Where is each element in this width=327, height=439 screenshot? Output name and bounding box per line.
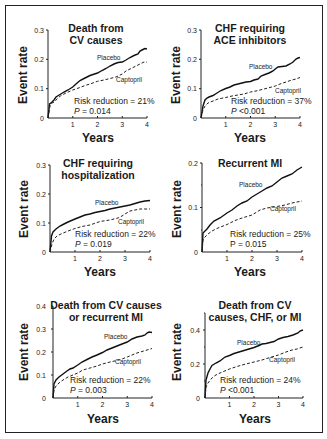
x-tick: 3 [123, 255, 127, 262]
panel-chf-hosp: Event rate 0 0.1 0.2 0.3 1 2 3 4 Years C… [17, 157, 156, 279]
y-tick: 0.2 [36, 191, 46, 198]
y-axis-label: Event rate [170, 180, 184, 238]
p-value: P <0.001 [220, 385, 255, 395]
x-axis-label: Years [87, 412, 119, 426]
y-axis-label: Event rate [16, 46, 30, 104]
panel-title: CHF requiring [215, 22, 285, 34]
captopril-label: Captopril [269, 356, 296, 364]
y-tick: 0.1 [187, 85, 197, 92]
panel-chf-ace: Event rate 0 0.1 0.2 0.3 1 2 3 4 Years C… [169, 22, 312, 145]
x-tick: 3 [125, 401, 129, 408]
x-tick: 1 [228, 401, 232, 408]
p-number: = 0.019 [81, 239, 112, 249]
y-tick: 0 [196, 395, 200, 402]
panel-title: Death from CV [219, 299, 292, 311]
x-tick: 4 [298, 121, 302, 128]
y-tick: 0.3 [34, 27, 44, 34]
p-number: = 0.003 [76, 385, 107, 395]
y-tick: 0 [42, 395, 46, 402]
placebo-label: Placebo [237, 339, 261, 346]
x-tick: 2 [250, 255, 254, 262]
risk-reduction: Risk reduction = 37% [231, 96, 312, 106]
y-axis-label: Event rate [17, 180, 31, 238]
risk-reduction: Risk reduction = 22% [70, 375, 151, 385]
placebo-label: Placebo [239, 181, 263, 188]
x-axis-label: Years [234, 265, 266, 279]
x-axis [202, 250, 302, 252]
panel-title: Death from CV causes [50, 299, 162, 311]
panel-recurrent-mi: Event rate 0 0.1 0.2 1 2 3 4 Years Recur… [170, 157, 311, 279]
y-tick: 0.2 [188, 160, 198, 167]
placebo-label: Placebo [249, 63, 273, 70]
risk-reduction: Risk reduction = 21% [74, 96, 155, 106]
y-axis-label: Event rate [169, 46, 183, 104]
x-axis-label: Years [82, 131, 114, 145]
x-tick: 2 [101, 401, 105, 408]
y-tick: 0.2 [34, 56, 44, 63]
panel-title: CHF requiring [63, 157, 133, 169]
p-value: P = 0.014 [74, 106, 111, 116]
x-tick: 4 [301, 401, 305, 408]
x-axis [201, 116, 300, 118]
captopril-label: Captopril [118, 218, 145, 226]
captopril-label: Captopril [270, 205, 297, 213]
panel-title: hospitalization [61, 169, 135, 181]
placebo-label: Placebo [97, 54, 121, 61]
x-axis [50, 250, 150, 252]
risk-reduction: Risk reduction = 24% [220, 375, 301, 385]
x-axis-label: Years [239, 412, 271, 426]
placebo-label: Placebo [95, 199, 119, 206]
p-value: P <0.001 [231, 106, 266, 116]
y-tick: 0.1 [34, 85, 44, 92]
x-tick: 3 [273, 121, 277, 128]
y-tick: 0 [194, 249, 198, 256]
x-tick: 1 [224, 121, 228, 128]
y-axis [48, 165, 50, 252]
y-axis [199, 30, 201, 118]
x-tick: 4 [145, 121, 149, 128]
panel-title: CV causes [69, 34, 122, 46]
y-axis [203, 313, 205, 398]
y-tick: 0.2 [36, 349, 46, 356]
x-axis-label: Years [234, 131, 266, 145]
x-tick: 4 [148, 255, 152, 262]
risk-reduction: Risk reduction = 25% [230, 229, 311, 239]
y-tick: 0.3 [36, 326, 46, 333]
y-tick: 0.4 [36, 303, 46, 310]
x-tick: 4 [150, 401, 154, 408]
figure-canvas: Event rate 0 0.1 0.2 0.3 1 2 3 4 Years D… [0, 0, 327, 439]
y-tick: 0.1 [36, 220, 46, 227]
x-axis [205, 396, 303, 398]
risk-reduction: Risk reduction = 22% [75, 229, 156, 239]
y-tick: 0.1 [36, 372, 46, 379]
x-tick: 3 [120, 121, 124, 128]
x-tick: 2 [96, 121, 100, 128]
y-axis [46, 30, 48, 118]
y-tick: 0 [42, 249, 46, 256]
x-tick: 3 [277, 401, 281, 408]
p-number: <0.001 [237, 106, 266, 116]
p-value: P = 0.019 [75, 239, 112, 249]
x-tick: 3 [275, 255, 279, 262]
y-axis-label: Event rate [170, 323, 184, 381]
y-tick: 0.3 [187, 27, 197, 34]
x-tick: 4 [300, 255, 304, 262]
p-value: P = 0.015 [230, 239, 267, 249]
y-tick: 0 [40, 115, 44, 122]
panel-death-cv: Event rate 0 0.1 0.2 0.3 1 2 3 4 Years D… [16, 22, 155, 145]
x-tick: 2 [98, 255, 102, 262]
y-tick: 0.3 [36, 162, 46, 169]
panel-title: ACE inhibitors [214, 34, 287, 46]
captopril-label: Captopril [275, 87, 302, 95]
p-value: P = 0.003 [70, 385, 107, 395]
y-axis [200, 163, 202, 252]
panel-title: or recurrent MI [69, 311, 143, 323]
y-axis-label: Event rate [17, 323, 31, 381]
x-tick: 1 [225, 255, 229, 262]
x-tick: 2 [249, 121, 253, 128]
y-tick: 0.2 [187, 56, 197, 63]
captopril-label: Captopril [115, 358, 142, 366]
panel-title: Death from [68, 22, 123, 34]
x-tick: 2 [252, 401, 256, 408]
panel-title: Recurrent MI [218, 157, 282, 169]
